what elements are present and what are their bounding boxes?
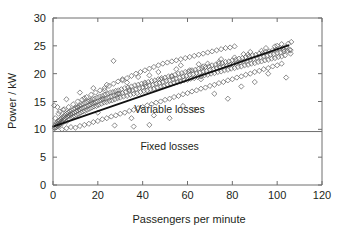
y-tick-label: 25 bbox=[34, 40, 46, 52]
x-tick-label: 20 bbox=[92, 189, 104, 201]
x-axis-title: Passengers per minute bbox=[132, 213, 245, 225]
y-tick-label: 10 bbox=[34, 123, 46, 135]
y-tick-label: 5 bbox=[40, 151, 46, 163]
x-tick-label: 0 bbox=[50, 189, 56, 201]
x-tick-label: 80 bbox=[226, 189, 238, 201]
y-tick-label: 15 bbox=[34, 96, 46, 108]
x-tick-label: 60 bbox=[181, 189, 193, 201]
region-annotation: Variable losses bbox=[134, 103, 204, 115]
y-axis-title: Power / kW bbox=[6, 72, 18, 129]
region-annotation: Fixed losses bbox=[140, 140, 198, 152]
y-tick-label: 0 bbox=[40, 179, 46, 191]
y-tick-label: 30 bbox=[34, 12, 46, 24]
x-tick-label: 120 bbox=[313, 189, 331, 201]
x-tick-label: 40 bbox=[137, 189, 149, 201]
chart-figure: 020406080100120 051015202530 Variable lo… bbox=[0, 0, 338, 230]
y-tick-label: 20 bbox=[34, 68, 46, 80]
x-tick-label: 100 bbox=[268, 189, 286, 201]
scatter-plot: 020406080100120 051015202530 Variable lo… bbox=[0, 0, 338, 230]
